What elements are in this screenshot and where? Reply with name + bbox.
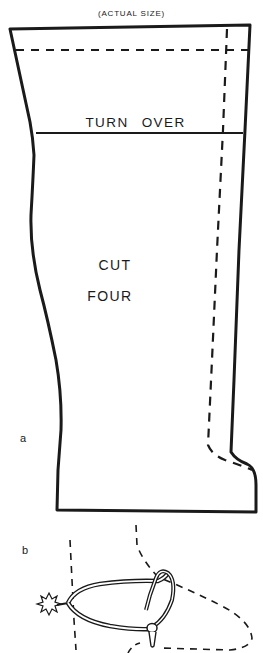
cut-count-label: FOUR (60, 288, 160, 304)
figure-label-a: a (20, 432, 26, 444)
diagram-canvas: (ACTUAL SIZE) TURN OVER CUT FOUR a b (0, 0, 263, 653)
turn-over-label: TURN OVER (0, 115, 263, 130)
cut-instruction-label: CUT (65, 257, 165, 273)
spur-detail-drawing (37, 525, 252, 653)
spur-strap-tail (149, 632, 156, 647)
figure-label-b: b (22, 544, 28, 556)
pattern-drawing (0, 0, 263, 653)
boot-sole-dashed (128, 643, 140, 653)
diagram-title: (ACTUAL SIZE) (0, 9, 263, 18)
spur-buckle (147, 624, 157, 633)
